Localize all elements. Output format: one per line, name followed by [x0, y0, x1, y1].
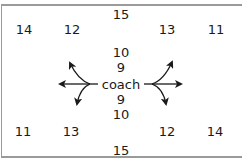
number-label-bottom-left-11: 11	[15, 125, 32, 138]
arrow-up-right-icon	[152, 62, 172, 84]
coach-label: coach	[102, 78, 140, 91]
number-label-upper-9: 9	[117, 61, 125, 74]
left-arrow-group	[60, 63, 98, 104]
number-label-top-left-12: 12	[64, 23, 81, 36]
right-arrow-group	[144, 62, 181, 104]
number-label-top-left-14: 14	[16, 23, 33, 36]
number-label-lower-9: 9	[117, 93, 125, 106]
number-label-bottom-15: 15	[113, 144, 130, 157]
arrow-down-left-icon	[77, 84, 90, 104]
number-label-bottom-right-14: 14	[207, 125, 224, 138]
number-label-top-right-13: 13	[159, 23, 176, 36]
number-label-top-15: 15	[113, 8, 130, 21]
arrow-up-left-icon	[70, 63, 90, 84]
number-label-top-right-11: 11	[208, 23, 225, 36]
number-label-lower-10: 10	[113, 108, 130, 121]
number-label-bottom-left-13: 13	[63, 125, 80, 138]
number-label-upper-10: 10	[113, 46, 130, 59]
arrow-down-right-icon	[152, 84, 166, 104]
number-label-bottom-right-12: 12	[159, 125, 176, 138]
